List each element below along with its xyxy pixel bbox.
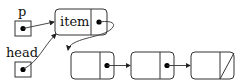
pointer-label-p: p xyxy=(18,4,26,19)
node-4 xyxy=(191,52,234,79)
pointer-label-head: head xyxy=(6,45,38,60)
node-item-label: item xyxy=(60,14,89,29)
linked-list-diagram: p head item xyxy=(0,0,247,83)
